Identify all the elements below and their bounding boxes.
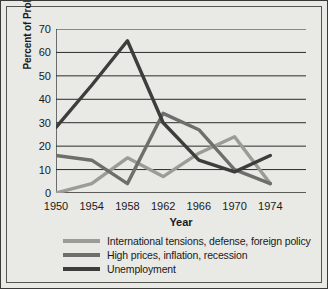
chart-plot [56,29,306,193]
legend-label-unemployment: Unemployment [107,263,176,275]
y-tick-label: 70 [39,23,51,35]
chart-figure: Percent of Problems Mentioned Year 01020… [0,0,328,289]
plot-area: Percent of Problems Mentioned Year 01020… [56,29,306,193]
legend-item-high-prices: High prices, inflation, recession [63,248,313,262]
legend-swatch-unemployment [63,267,100,271]
chart-legend: International tensions, defense, foreign… [63,234,313,276]
x-tick-label: 1962 [151,200,175,212]
legend-label-high-prices: High prices, inflation, recession [107,249,247,261]
y-tick-label: 0 [45,187,51,199]
series-line [56,137,270,193]
legend-item-international: International tensions, defense, foreign… [63,234,313,248]
x-tick-label: 1966 [187,200,211,212]
legend-item-unemployment: Unemployment [63,262,313,276]
y-tick-label: 10 [39,164,51,176]
x-tick-label: 1950 [44,200,68,212]
legend-label-international: International tensions, defense, foreign… [107,235,311,247]
y-tick-label: 20 [39,140,51,152]
x-tick-label: 1954 [79,200,103,212]
legend-swatch-international [63,239,100,243]
y-tick-label: 30 [39,117,51,129]
x-tick-label: 1974 [258,200,282,212]
y-tick-label: 40 [39,93,51,105]
x-tick-label: 1958 [115,200,139,212]
legend-swatch-high-prices [63,253,100,257]
x-tick-label: 1970 [222,200,246,212]
y-tick-label: 50 [39,70,51,82]
y-axis-label: Percent of Problems Mentioned [22,0,33,71]
y-tick-label: 60 [39,46,51,58]
x-axis-label: Year [56,216,306,228]
series-line [56,41,270,172]
